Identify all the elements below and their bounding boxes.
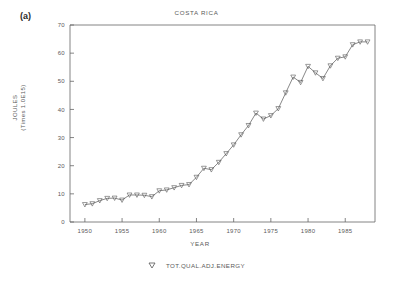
x-tick-label: 1965: [189, 228, 204, 234]
y-axis-label: JOULES (Times 1.0E15): [12, 53, 27, 163]
y-axis-label-line2: (Times 1.0E15): [19, 53, 27, 163]
data-series: [82, 40, 369, 207]
y-tick-label: 30: [58, 135, 66, 141]
y-tick-label: 60: [58, 50, 66, 56]
x-axis-label: YEAR: [150, 240, 250, 247]
y-tick-label: 0: [61, 219, 65, 225]
legend-label: TOT.QUAL.ADJ.ENERGY: [166, 262, 245, 269]
y-tick-label: 10: [58, 191, 66, 197]
x-tick-label: 1985: [338, 228, 353, 234]
axes: [70, 25, 375, 222]
x-tick-label: 1950: [78, 228, 93, 234]
y-tick-label: 40: [58, 107, 66, 113]
y-tick-label: 50: [58, 78, 66, 84]
x-tick-label: 1955: [115, 228, 130, 234]
triangle-down-icon: [148, 261, 156, 269]
y-axis-label-line1: JOULES: [12, 53, 20, 163]
y-tick-label: 70: [58, 22, 66, 28]
tick-marks: [70, 25, 345, 222]
x-tick-label: 1970: [226, 228, 241, 234]
legend: TOT.QUAL.ADJ.ENERGY: [0, 261, 393, 269]
y-tick-labels: 010203040506070: [58, 22, 66, 225]
x-tick-labels: 19501955196019651970197519801985: [78, 228, 353, 234]
data-point-marker: [82, 203, 87, 207]
chart-title: COSTA RICA: [0, 9, 393, 16]
x-tick-label: 1980: [301, 228, 316, 234]
x-tick-label: 1975: [264, 228, 279, 234]
x-tick-label: 1960: [152, 228, 167, 234]
figure-container: (a) COSTA RICA JOULES (Times 1.0E15) YEA…: [0, 0, 393, 286]
y-tick-label: 20: [58, 163, 66, 169]
